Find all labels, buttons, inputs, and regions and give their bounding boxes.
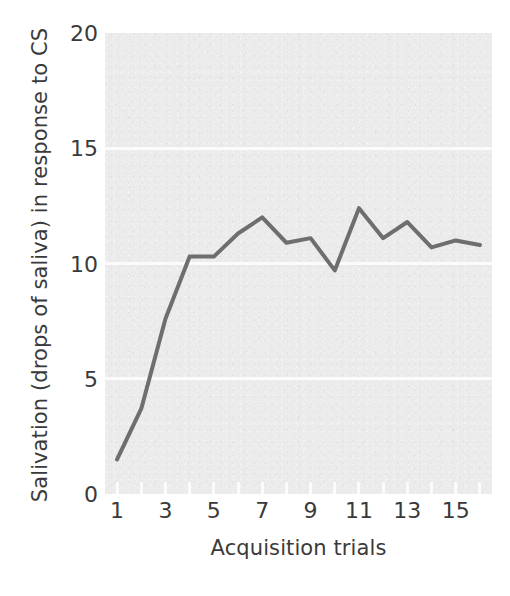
x-axis-tick-labels: 13579111315 xyxy=(105,498,492,532)
y-tick-label: 0 xyxy=(52,482,98,507)
x-tick-label: 9 xyxy=(304,498,318,523)
x-tick-label: 1 xyxy=(110,498,124,523)
y-tick-label: 20 xyxy=(52,21,98,46)
x-tick-label: 3 xyxy=(158,498,172,523)
x-tick-label: 7 xyxy=(255,498,269,523)
x-tick-label: 15 xyxy=(442,498,470,523)
y-axis-tick-labels: 05101520 xyxy=(50,0,98,596)
x-tick-label: 13 xyxy=(393,498,421,523)
salivation-line xyxy=(117,208,480,459)
y-tick-label: 10 xyxy=(52,251,98,276)
data-line-svg xyxy=(105,33,492,494)
y-tick-label: 5 xyxy=(52,366,98,391)
plot-area xyxy=(105,33,492,494)
y-tick-label: 15 xyxy=(52,136,98,161)
x-tick-label: 11 xyxy=(345,498,373,523)
chart-figure: Salivation (drops of saliva) in response… xyxy=(0,0,510,596)
x-axis-label: Acquisition trials xyxy=(105,536,492,560)
x-tick-label: 5 xyxy=(207,498,221,523)
